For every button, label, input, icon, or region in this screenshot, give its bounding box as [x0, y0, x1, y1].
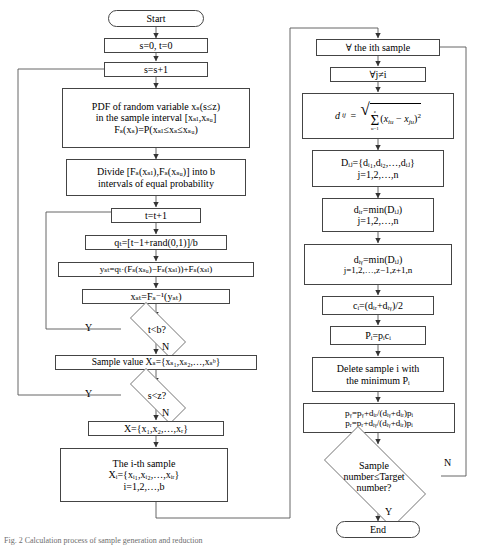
D-ij-set-process: Dᵢⱼ={dᵢ₁,dᵢ₂,…,dᵢⱼ} j=1,2,…,n: [312, 150, 444, 187]
pdf-process: PDF of random variable xₛ(s≤z) in the sa…: [62, 88, 250, 148]
decision-t-less-b: t<b?: [118, 314, 196, 344]
t-increment-process: t=t+1: [111, 208, 201, 223]
branch-label-sample-no: N: [444, 457, 451, 468]
divide-process: Divide [Fₛ(xₛₗ),Fₛ(xₛᵤ)] into b interval…: [66, 159, 246, 196]
end-terminator: End: [336, 521, 420, 538]
forall-j-process: ∀j≠i: [330, 67, 426, 82]
p-update-process: pᵧ=pᵧ+dᵢᵣ/(dᵢᵧ+dᵢᵣ)pᵢ pᵣ=pᵣ+dᵢᵧ/(dᵢᵧ+dᵢᵣ…: [303, 403, 455, 433]
start-terminator: Start: [108, 10, 204, 27]
branch-label-s-no: N: [162, 407, 169, 418]
d-iz-min-process: dᵢᵣ=min(Dᵢⱼ) j=1,2,…,n: [322, 198, 434, 232]
sample-value-process: Sample value Xₛ={xₛ₁,xₛ₂,…,xₛᵇ}: [55, 355, 257, 370]
forall-ith-sample-process: ∀ the ith sample: [316, 39, 440, 56]
distance-formula-process: dij = √ z Σ u=1 (xiu − xju)2: [302, 93, 454, 139]
s-increment-process: s=s+1: [104, 62, 208, 77]
branch-label-s-yes: Y: [85, 388, 92, 399]
flowchart-figure: Start s=0, t=0 s=s+1 PDF of random varia…: [0, 0, 479, 550]
init-process: s=0, t=0: [104, 38, 208, 53]
x-st-process: xₛₜ=Fₛ⁻¹(yₛₜ): [82, 289, 230, 304]
d-iy-min-process: dᵢᵧ=min(Dᵢⱼ) j=1,2,…,z−1,z+1,n: [304, 244, 452, 285]
y-st-process: yₛₜ=qₜ·(Fₛ(xₛᵤ)−Fₛ(xₛₗ))+Fₛ(xₛₗ): [58, 262, 254, 277]
P-i-process: Pᵢ=pᵢcᵢ: [330, 326, 426, 345]
ith-sample-process: The i-th sample Xᵢ={xᵢ₁,xᵢ₂,…,xᵢᵣ} i=1,2…: [60, 448, 228, 502]
branch-label-t-no: N: [162, 341, 169, 352]
x-set-process: X={x₁,x₂,…,xᵣ}: [88, 421, 224, 436]
decision-s-less-z: s<z?: [118, 380, 196, 410]
decision-sample-number: Sample number≤Target number?: [307, 443, 441, 509]
c-i-process: cᵢ=(dᵢᵣ+dᵢᵧ)/2: [322, 296, 434, 315]
delete-sample-process: Delete sample i with the minimum Pᵢ: [312, 357, 444, 392]
q-t-process: qₜ=[t−1+rand(0,1)]/b: [85, 235, 227, 250]
branch-label-t-yes: Y: [85, 322, 92, 333]
branch-label-sample-yes: Y: [385, 506, 392, 517]
